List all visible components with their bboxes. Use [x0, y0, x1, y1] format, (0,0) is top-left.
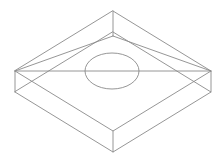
technical-drawing-canvas — [0, 0, 223, 162]
isometric-slab-svg — [0, 0, 223, 162]
